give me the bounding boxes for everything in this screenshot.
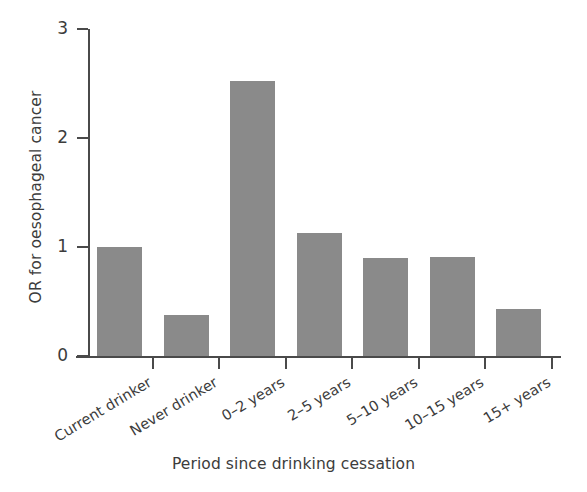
y-axis-title: OR for oesophageal cancer [27,57,45,337]
y-tick-label: 1 [38,238,68,255]
y-tick-mark [77,355,88,357]
bar [363,258,408,356]
bar [97,247,142,356]
bar [230,81,275,356]
x-tick-mark [418,358,420,369]
y-tick-label: 3 [38,20,68,37]
y-tick-label: 0 [38,347,68,364]
x-axis-line [76,356,561,358]
bar [164,315,209,356]
bar [430,257,475,356]
x-axis-title: Period since drinking cessation [0,455,587,473]
y-tick-mark [77,28,88,30]
x-tick-mark [484,358,486,369]
x-tick-mark [351,358,353,369]
x-tick-mark [152,358,154,369]
y-tick-mark [77,137,88,139]
y-tick-label: 2 [38,129,68,146]
bar-chart-figure: OR for oesophageal cancer 0123 Current d… [0,0,587,492]
x-tick-mark [285,358,287,369]
plot-area [88,29,560,356]
x-tick-mark [218,358,220,369]
bar [496,309,541,356]
x-tick-mark [551,358,553,369]
bar [297,233,342,356]
y-tick-mark [77,246,88,248]
